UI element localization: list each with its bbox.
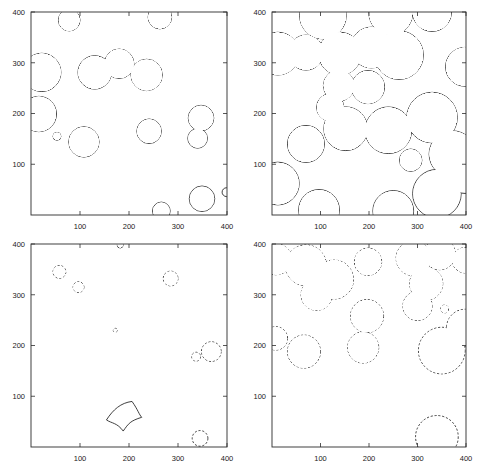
plot-panel-top-left: 100200300400100200300400 (5, 2, 241, 241)
contour-group (260, 239, 483, 459)
x-tick-label: 400 (460, 222, 473, 231)
y-tick-label: 200 (12, 109, 25, 118)
y-tick-label: 100 (253, 392, 266, 401)
y-tick-label: 300 (253, 59, 266, 68)
y-tick-label: 300 (12, 59, 25, 68)
y-tick-label: 200 (12, 341, 25, 350)
contour-blob (106, 401, 141, 431)
x-tick-label: 400 (221, 454, 234, 463)
contour-group (53, 242, 221, 446)
x-tick-label: 100 (314, 454, 327, 463)
x-tick-label: 200 (123, 454, 136, 463)
x-tick-label: 400 (460, 454, 473, 463)
contour-group (21, 5, 231, 219)
x-tick-label: 300 (411, 222, 424, 231)
x-tick-label: 100 (74, 454, 87, 463)
y-tick-label: 400 (12, 240, 25, 249)
contour-circle (222, 188, 231, 197)
x-tick-label: 400 (221, 222, 234, 231)
y-tick-label: 300 (12, 291, 25, 300)
x-tick-label: 300 (172, 222, 185, 231)
contour-group (256, 0, 484, 231)
x-tick-label: 100 (74, 222, 87, 231)
plot-panel-bottom-left: 100200300400100200300400 (5, 234, 241, 471)
contour-circle (416, 416, 459, 459)
x-tick-label: 200 (363, 454, 376, 463)
y-tick-label: 400 (253, 8, 266, 17)
x-tick-label: 100 (314, 222, 327, 231)
x-tick-label: 200 (363, 222, 376, 231)
x-tick-label: 300 (411, 454, 424, 463)
y-tick-label: 400 (253, 240, 266, 249)
four-panel-figure: 1002003004001002003004001002003004001002… (0, 0, 488, 471)
y-tick-label: 100 (253, 160, 266, 169)
plot-panel-bottom-right: 100200300400100200300400 (246, 234, 480, 471)
x-tick-label: 300 (172, 454, 185, 463)
y-tick-label: 200 (253, 109, 266, 118)
y-tick-label: 400 (12, 8, 25, 17)
x-tick-label: 200 (123, 222, 136, 231)
plot-panel-top-right: 100200300400100200300400 (246, 2, 480, 241)
y-tick-label: 300 (253, 291, 266, 300)
y-tick-label: 200 (253, 341, 266, 350)
contour-circle (192, 431, 208, 447)
y-tick-label: 100 (12, 160, 25, 169)
y-tick-label: 100 (12, 392, 25, 401)
